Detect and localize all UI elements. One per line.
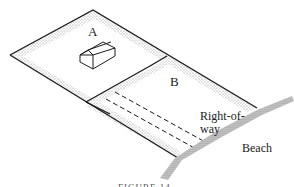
beach-label: Beach (242, 142, 272, 154)
right-of-way-label: Right-of- way (200, 110, 245, 136)
house-icon (80, 42, 115, 69)
right-of-way-label-line2: way (200, 123, 245, 136)
property-diagram (0, 0, 294, 187)
figure-caption: FIGURE 14 (118, 183, 171, 187)
parcel-b-label: B (170, 75, 179, 88)
parcel-a-label: A (88, 25, 97, 38)
